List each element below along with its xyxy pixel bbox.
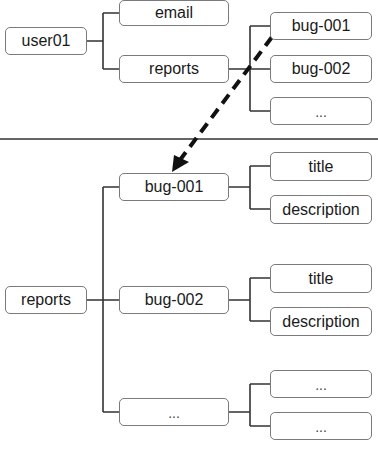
node-user01: user01 bbox=[5, 27, 87, 55]
node-bug-001-bottom: bug-001 bbox=[119, 173, 229, 201]
node-email: email bbox=[119, 0, 229, 26]
node-ellipsis-child-2: ... bbox=[270, 412, 372, 440]
node-title-2: title bbox=[270, 264, 372, 293]
node-ellipsis-bottom: ... bbox=[119, 398, 229, 426]
node-ellipsis-child-1: ... bbox=[270, 370, 372, 398]
node-bug-002-bottom: bug-002 bbox=[119, 286, 229, 314]
node-ellipsis-top: ... bbox=[270, 97, 372, 125]
node-reports-bottom: reports bbox=[5, 286, 87, 314]
node-description-1: description bbox=[270, 195, 372, 224]
node-description-2: description bbox=[270, 307, 372, 336]
node-reports-top: reports bbox=[119, 55, 229, 83]
node-bug-001-top: bug-001 bbox=[270, 12, 372, 40]
node-title-1: title bbox=[270, 152, 372, 181]
node-bug-002-top: bug-002 bbox=[270, 55, 372, 83]
